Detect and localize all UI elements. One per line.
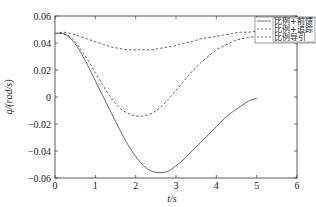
legend-label: 比例导引 — [274, 32, 306, 42]
x-tick-label: 3 — [174, 180, 179, 191]
x-tick-label: 6 — [295, 180, 300, 191]
y-axis-label: q/(rad/s) — [3, 79, 15, 115]
x-tick-label: 0 — [53, 180, 58, 191]
series-line-1 — [55, 33, 257, 116]
y-tick-label: 0.06 — [34, 11, 52, 22]
y-tick-label: 0.02 — [34, 65, 52, 76]
series-line-2 — [55, 31, 257, 50]
line-chart: 01234560.060.040.020−0.02−0.04−0.06 t/s … — [0, 0, 316, 207]
y-tick-label: −0.04 — [28, 146, 51, 157]
y-tick-label: −0.06 — [28, 173, 51, 184]
x-tick-label: 5 — [254, 180, 259, 191]
legend: 比例+前馈 比例+追踪 比例导引 — [255, 16, 316, 43]
series-line-0 — [55, 33, 257, 172]
y-tick-label: 0.04 — [34, 38, 52, 49]
x-tick-label: 1 — [93, 180, 98, 191]
y-tick-label: 0 — [46, 92, 51, 103]
x-tick-label: 2 — [133, 180, 138, 191]
x-axis-label: t/s — [167, 193, 177, 204]
y-tick-label: −0.02 — [28, 119, 51, 130]
data-series — [55, 31, 257, 173]
x-tick-label: 4 — [214, 180, 219, 191]
